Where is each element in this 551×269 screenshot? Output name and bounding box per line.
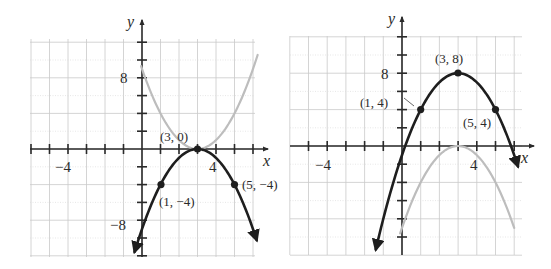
left-tick-y-8: 8 bbox=[120, 70, 128, 86]
right-y-axis-label: y bbox=[386, 10, 396, 28]
left-point-2 bbox=[231, 181, 238, 188]
left-label-point-2: (5, −4) bbox=[242, 177, 278, 192]
right-point-vertex bbox=[454, 69, 461, 76]
left-label-vertex: (3, 0) bbox=[160, 129, 188, 144]
right-point-2 bbox=[492, 106, 499, 113]
right-point-1 bbox=[417, 106, 424, 113]
right-tick-x-4: 4 bbox=[470, 157, 478, 173]
left-x-axis-label: x bbox=[262, 152, 270, 169]
left-point-1 bbox=[157, 181, 164, 188]
right-label-leader-line bbox=[404, 98, 414, 106]
right-label-point-1: (1, 4) bbox=[360, 95, 388, 110]
right-graph: x y −4 4 8 (3, 8) (1, 4) (5, 4) bbox=[290, 10, 534, 255]
right-label-vertex: (3, 8) bbox=[435, 51, 463, 66]
right-x-axis-label: x bbox=[520, 149, 528, 166]
left-main-parabola bbox=[135, 149, 257, 252]
left-reference-parabola bbox=[141, 55, 258, 149]
left-graph: x y −4 4 8 −8 (3, 0) (1, −4) (5, −4) bbox=[30, 13, 278, 257]
right-tick-x-neg4: −4 bbox=[315, 157, 331, 173]
right-reference-parabola bbox=[400, 146, 514, 233]
left-point-vertex bbox=[194, 145, 201, 152]
left-tick-y-neg8: −8 bbox=[110, 217, 126, 233]
right-label-point-2: (5, 4) bbox=[463, 115, 491, 130]
left-tick-x-neg4: −4 bbox=[55, 159, 71, 175]
left-y-axis-label: y bbox=[125, 13, 135, 31]
left-tick-x-4: 4 bbox=[209, 159, 217, 175]
right-tick-y-8: 8 bbox=[381, 66, 389, 82]
figure-canvas: x y −4 4 8 −8 (3, 0) (1, −4) (5, −4) x y… bbox=[0, 0, 551, 269]
left-label-point-1: (1, −4) bbox=[159, 194, 195, 209]
right-ticks bbox=[309, 37, 515, 237]
right-main-parabola bbox=[376, 73, 518, 249]
